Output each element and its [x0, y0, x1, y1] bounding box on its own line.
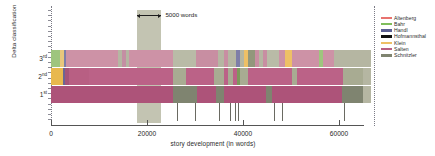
band-segment-salten: [51, 86, 173, 103]
band-segment-klein: [51, 68, 63, 85]
band-segment-schnitzler: [173, 50, 196, 67]
legend-swatch-icon: [381, 29, 392, 31]
legend-label: Altenberg: [394, 15, 416, 21]
band-segment-klein: [285, 50, 292, 67]
band-segment-schnitzler: [342, 86, 363, 103]
chart-figure: Delta classification story development (…: [0, 0, 435, 156]
x-axis-line: [51, 125, 364, 126]
band-segment-salten: [292, 50, 318, 67]
chapter-marker: [195, 103, 196, 121]
legend-item-hofmannsthal[interactable]: Hofmannsthal: [381, 34, 435, 40]
legend-label: Salten: [394, 46, 409, 52]
x-tick-label: 40000: [234, 130, 252, 137]
y-axis-tick: [48, 20, 51, 21]
legend-label: Klein: [394, 40, 406, 46]
y-axis-tick: [48, 46, 51, 47]
x-axis-tick: [147, 120, 148, 125]
legend-item-bahr[interactable]: Bahr: [381, 21, 435, 27]
arrow-right-icon: [158, 14, 161, 18]
band-segment-schnitzler: [228, 50, 236, 67]
legend-swatch-icon: [381, 17, 392, 19]
x-axis-title: story development (in words): [51, 140, 375, 147]
x-tick-label: 20000: [138, 130, 156, 137]
y-tick-label-2nd: 2nd: [38, 73, 47, 81]
band-row-2nd: [51, 68, 371, 85]
legend-label: Handl: [394, 27, 408, 33]
band-segment-schnitzler: [216, 86, 225, 103]
band-segment-schnitzler: [173, 68, 186, 85]
x-tick-label: 0: [49, 130, 53, 137]
y-axis-tick: [48, 31, 51, 32]
chapter-marker: [219, 103, 220, 121]
legend-item-altenberg[interactable]: Altenberg: [381, 15, 435, 21]
x-tick-label: 60000: [330, 130, 348, 137]
y-axis-tick: [48, 114, 51, 115]
band-segment-schnitzler: [214, 68, 224, 85]
band-segment-salten: [297, 68, 343, 85]
scale-bar-arrow: [137, 15, 161, 16]
y-axis-tick: [48, 15, 51, 16]
band-segment-schnitzler: [173, 86, 197, 103]
band-segment-salten: [323, 50, 334, 67]
band-segment-salten: [186, 68, 213, 85]
band-segment-salten: [196, 50, 218, 67]
band-segment-salten: [129, 50, 174, 67]
legend: AltenbergBahrHandlHofmannsthalKleinSalte…: [381, 15, 435, 59]
legend-swatch-icon: [381, 42, 392, 44]
chapter-marker: [230, 103, 231, 121]
band-segment-salten: [272, 86, 343, 103]
band-segment-schnitzler: [240, 68, 248, 85]
band-segment-bahr: [51, 50, 60, 67]
chapter-marker: [282, 103, 283, 121]
chapter-marker: [177, 103, 178, 121]
chapter-marker: [344, 103, 345, 121]
band-segment-salten: [224, 86, 266, 103]
legend-label: Schnitzler: [394, 52, 417, 58]
x-axis-tick: [51, 120, 52, 125]
y-tick-label-3rd: 3rd: [39, 55, 47, 63]
band-segment-schnitzler: [267, 50, 279, 67]
legend-swatch-icon: [381, 54, 392, 56]
chapter-marker: [235, 103, 236, 121]
legend-item-schnitzler[interactable]: Schnitzler: [381, 53, 435, 59]
y-axis-tick: [48, 109, 51, 110]
y-tick-label-1st: 1st: [40, 91, 47, 99]
y-axis-title: Delta classification: [7, 0, 21, 91]
y-axis-tick: [48, 41, 51, 42]
chapter-marker: [274, 103, 275, 121]
legend-item-klein[interactable]: Klein: [381, 40, 435, 46]
band-row-3rd: [51, 50, 371, 67]
legend-swatch-icon: [381, 48, 392, 50]
legend-label: Hofmannsthal: [394, 33, 426, 39]
x-axis-tick: [243, 120, 244, 125]
chapter-marker: [238, 103, 239, 121]
y-axis-tick: [48, 26, 51, 27]
band-segment-salten: [248, 68, 292, 85]
legend-item-handl[interactable]: Handl: [381, 28, 435, 34]
legend-label: Bahr: [394, 21, 405, 27]
band-row-1st: [51, 86, 371, 103]
band-segment-salten: [197, 86, 215, 103]
band-segment-salten: [69, 68, 90, 85]
legend-item-salten[interactable]: Salten: [381, 46, 435, 52]
scale-bar-label: 5000 words: [165, 11, 197, 18]
y-axis-tick: [48, 10, 51, 11]
plot-area: 5000 words 3rd 2nd 1st 0200004000060000: [51, 6, 375, 126]
band-segment-salten: [89, 68, 173, 85]
band-segment-salten: [66, 50, 118, 67]
arrow-left-icon: [137, 14, 140, 18]
legend-swatch-icon: [381, 23, 392, 25]
plot-right-boundary-dotted: [374, 6, 375, 126]
y-axis-tick: [48, 36, 51, 37]
band-segment-schnitzler: [334, 50, 363, 67]
band-segment-schnitzler: [343, 68, 363, 85]
legend-swatch-icon: [381, 35, 392, 37]
y-axis-tick: [48, 104, 51, 105]
x-axis-tick: [339, 120, 340, 125]
